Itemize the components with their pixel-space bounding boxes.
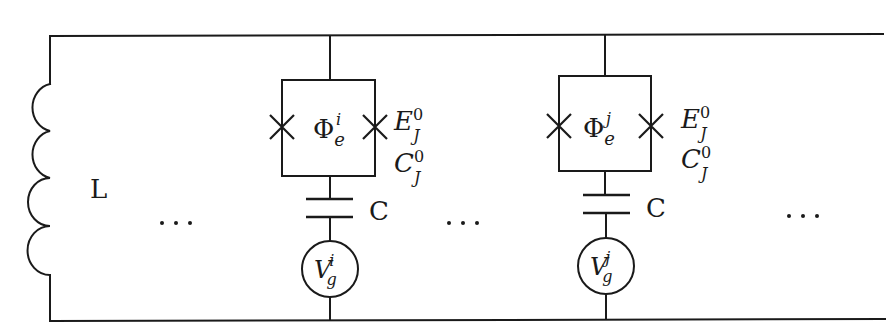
top-rail-wire xyxy=(50,34,883,84)
branch-i: Φei E0J C0J C Vig xyxy=(270,36,424,320)
ellipsis-middle xyxy=(447,221,479,225)
junction-capacitance-label: C0J xyxy=(681,143,711,183)
ellipsis-dot xyxy=(475,221,479,225)
junction-energy-label: E0J xyxy=(680,103,710,143)
gate-voltage-label: Vjg xyxy=(590,248,613,286)
ellipsis-dot xyxy=(174,221,178,225)
ellipsis-dot xyxy=(461,221,465,225)
inductor xyxy=(28,84,50,275)
capacitor-label: C xyxy=(646,193,666,223)
ellipsis-dot xyxy=(787,214,791,218)
junction-capacitance-label: C0J xyxy=(394,147,424,187)
ellipsis-dot xyxy=(160,221,164,225)
gate-voltage-label: Vig xyxy=(314,251,337,289)
ellipsis-dot xyxy=(801,214,805,218)
ellipsis-dot xyxy=(188,221,192,225)
capacitor-label: C xyxy=(369,196,389,226)
capacitor-icon xyxy=(583,195,630,213)
ellipsis-left xyxy=(160,221,192,225)
junction-energy-label: E0J xyxy=(393,105,423,145)
ellipsis-dot xyxy=(815,214,819,218)
flux-label: Φej xyxy=(583,109,615,149)
capacitor-icon xyxy=(306,199,353,217)
ellipsis-dot xyxy=(447,221,451,225)
flux-label: Φei xyxy=(313,110,345,150)
branch-j: Φej E0J C0J C Vjg xyxy=(547,35,711,319)
ellipsis-right xyxy=(787,214,819,218)
bottom-rail-wire xyxy=(50,275,885,321)
inductor-label: L xyxy=(90,174,107,204)
inductor-coil-icon xyxy=(28,84,50,275)
circuit-diagram: L Φei E0J C0J xyxy=(0,0,895,336)
